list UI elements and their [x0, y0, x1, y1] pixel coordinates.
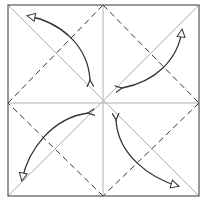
arrow-top-right-corner-icon	[122, 30, 182, 88]
crease-lines	[8, 5, 199, 196]
fold-arrows	[22, 16, 182, 186]
arrow-bottom-left-corner-icon	[22, 113, 88, 180]
arrow-top-left-corner-icon	[28, 16, 90, 80]
origami-diagram	[0, 0, 203, 208]
